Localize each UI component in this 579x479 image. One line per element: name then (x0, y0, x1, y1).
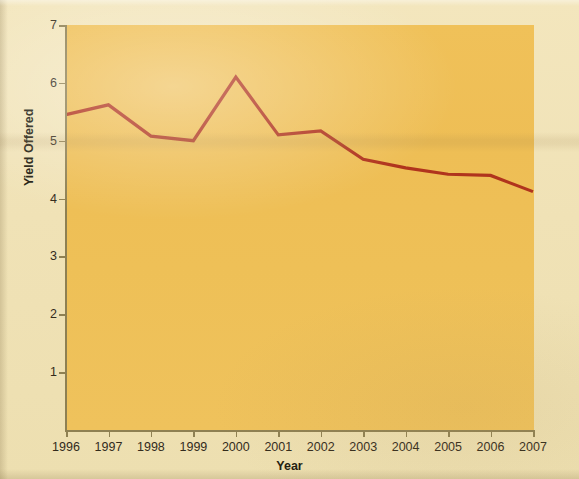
x-tick-label-2000: 2000 (213, 440, 259, 454)
y-tick-label-1: 1 (43, 365, 57, 379)
y-tick-1 (59, 372, 66, 374)
y-axis-spine (65, 25, 67, 431)
x-tick-2006 (491, 430, 493, 437)
x-tick-1998 (151, 430, 153, 437)
x-tick-label-2006: 2006 (468, 440, 514, 454)
x-tick-2005 (448, 430, 450, 437)
x-tick-2001 (278, 430, 280, 437)
x-tick-label-1999: 1999 (170, 440, 216, 454)
x-tick-label-2005: 2005 (425, 440, 471, 454)
x-tick-label-2007: 2007 (510, 440, 556, 454)
x-tick-2000 (236, 430, 238, 437)
x-tick-label-2002: 2002 (298, 440, 344, 454)
y-tick-3 (59, 256, 66, 258)
x-tick-2002 (321, 430, 323, 437)
y-tick-5 (59, 141, 66, 143)
x-tick-label-1997: 1997 (86, 440, 132, 454)
x-tick-label-1996: 1996 (43, 440, 89, 454)
y-tick-label-6: 6 (43, 76, 57, 90)
y-tick-2 (59, 314, 66, 316)
x-tick-1996 (66, 430, 68, 437)
x-axis-spine (65, 430, 534, 432)
y-tick-label-2: 2 (43, 307, 57, 321)
y-tick-label-5: 5 (43, 134, 57, 148)
y-tick-label-7: 7 (43, 18, 57, 32)
y-tick-7 (59, 25, 66, 27)
x-tick-1997 (109, 430, 111, 437)
x-tick-label-1998: 1998 (128, 440, 174, 454)
x-tick-1999 (193, 430, 195, 437)
y-tick-label-4: 4 (43, 192, 57, 206)
x-tick-label-2004: 2004 (383, 440, 429, 454)
x-tick-2007 (533, 430, 535, 437)
y-axis-title: Yield Offered (22, 109, 36, 186)
x-tick-label-2001: 2001 (255, 440, 301, 454)
x-tick-label-2003: 2003 (340, 440, 386, 454)
chart-figure: Yield offered on bonds Years to Maturity… (0, 0, 579, 479)
y-tick-label-3: 3 (43, 249, 57, 263)
y-tick-6 (59, 83, 66, 85)
x-tick-2003 (363, 430, 365, 437)
x-axis-title: Year (0, 459, 579, 473)
scan-edge-top (0, 0, 579, 6)
y-tick-4 (59, 199, 66, 201)
scan-edge-left (0, 0, 8, 479)
plot-area (66, 25, 534, 431)
x-tick-2004 (406, 430, 408, 437)
